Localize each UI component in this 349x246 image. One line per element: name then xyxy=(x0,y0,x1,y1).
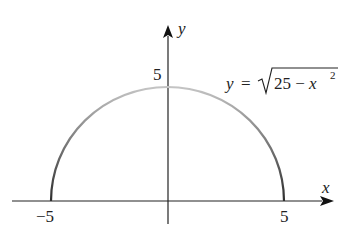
equation-exponent: 2 xyxy=(330,69,336,81)
x-axis xyxy=(12,196,334,206)
curve-equation-label: y = 25 − x 2 xyxy=(224,68,338,93)
x-tick-5: 5 xyxy=(280,207,289,226)
y-tick-5: 5 xyxy=(153,65,162,84)
equation-lhs: y xyxy=(224,74,234,93)
equation-equals: = xyxy=(241,74,251,93)
semicircle-diagram: y x 5 −5 5 y = 25 − x 2 xyxy=(0,0,349,246)
equation-radicand: 25 − x xyxy=(274,74,317,93)
x-axis-label: x xyxy=(321,178,330,197)
y-axis-label: y xyxy=(176,19,186,38)
y-axis xyxy=(163,25,173,224)
x-tick-neg5: −5 xyxy=(36,207,54,226)
x-axis-arrow-icon xyxy=(320,196,334,206)
